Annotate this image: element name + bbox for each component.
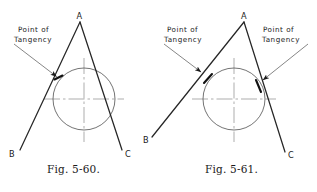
angle-side-ac: [80, 22, 122, 150]
annotation-point-of-right-a: Point of: [167, 25, 198, 34]
vertex-label-b-left: B: [9, 149, 15, 159]
figure-page: Point of Tangency A B C: [0, 0, 317, 192]
leader-line-left: [14, 44, 57, 77]
leader-line-right-a: [164, 44, 201, 72]
centre-lines-left: [44, 58, 124, 142]
annotation-tangency-right-b: Tangency: [261, 35, 300, 44]
annotation-tangency-right-a: Tangency: [163, 35, 202, 44]
caption-fig-5-60: Fig. 5-60.: [47, 163, 100, 175]
vertex-label-a-right: A: [241, 11, 247, 21]
vertex-label-a-left: A: [77, 11, 83, 21]
vertex-label-c-left: C: [125, 149, 131, 159]
leader-line-right-b: [263, 44, 308, 80]
annotation-point-of-right-b: Point of: [263, 25, 294, 34]
vertex-label-b-right: B: [143, 135, 149, 145]
figure-fig-5-60: Point of Tangency A B C: [9, 11, 131, 159]
annotation-tangency-left: Tangency: [13, 35, 52, 44]
annotation-point-of-left: Point of: [18, 25, 49, 34]
caption-fig-5-61: Fig. 5-61.: [205, 163, 258, 175]
figure-fig-5-61: Point of Tangency Point of Tangency A B …: [143, 11, 308, 160]
vertex-label-c-right: C: [288, 150, 294, 160]
